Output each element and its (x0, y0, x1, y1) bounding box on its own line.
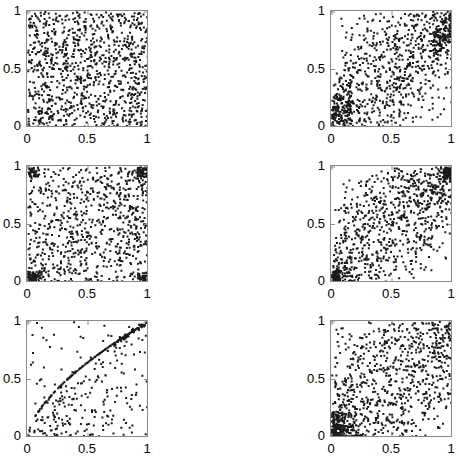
panel-top-left-xtick-2: 1 (127, 132, 167, 145)
panel-bottom-right: 00.5100.51 (330, 320, 452, 437)
panel-middle-left-xtick-1: 0.5 (67, 287, 107, 300)
panel-bottom-left-xtick-0: 0 (7, 442, 47, 455)
panel-middle-left-ytick-0: 0 (0, 274, 21, 287)
panel-top-left-xtick-1: 0.5 (67, 132, 107, 145)
panel-bottom-right-xtick-1: 0.5 (371, 442, 411, 455)
panel-bottom-left-ytick-2: 1 (0, 314, 21, 327)
panel-bottom-right-xtick-0: 0 (311, 442, 351, 455)
panel-bottom-left-ytick-0: 0 (0, 429, 21, 442)
panel-middle-right: 00.5100.51 (330, 165, 452, 282)
panel-bottom-right-points (331, 321, 452, 437)
panel-top-right-ytick-2: 1 (300, 4, 325, 17)
panel-top-right-ytick-1: 0.5 (300, 62, 325, 75)
panel-top-left-ytick-2: 1 (0, 4, 21, 17)
panel-middle-right-xtick-0: 0 (311, 287, 351, 300)
panel-bottom-left-axes (26, 320, 148, 437)
panel-top-left: 00.5100.51 (26, 10, 148, 127)
panel-middle-right-points (331, 166, 452, 282)
panel-top-right-xtick-1: 0.5 (371, 132, 411, 145)
panel-middle-right-ytick-1: 0.5 (300, 217, 325, 230)
panel-middle-left-axes (26, 165, 148, 282)
panel-top-right-xtick-2: 1 (431, 132, 459, 145)
panel-bottom-right-ytick-0: 0 (300, 429, 325, 442)
panel-bottom-left-ytick-1: 0.5 (0, 372, 21, 385)
panel-bottom-right-xtick-2: 1 (431, 442, 459, 455)
panel-top-left-axes (26, 10, 148, 127)
panel-top-right-ytick-0: 0 (300, 119, 325, 132)
panel-bottom-left-xtick-2: 1 (127, 442, 167, 455)
panel-top-right: 00.5100.51 (330, 10, 452, 127)
panel-bottom-right-ytick-2: 1 (300, 314, 325, 327)
panel-middle-right-axes (330, 165, 452, 282)
panel-middle-left-points (27, 166, 148, 282)
panel-top-left-ytick-0: 0 (0, 119, 21, 132)
panel-bottom-left: 00.5100.51 (26, 320, 148, 437)
panel-bottom-right-ytick-1: 0.5 (300, 372, 325, 385)
panel-middle-left: 00.5100.51 (26, 165, 148, 282)
panel-top-right-points (331, 11, 452, 127)
panel-middle-left-xtick-2: 1 (127, 287, 167, 300)
panel-middle-right-xtick-1: 0.5 (371, 287, 411, 300)
panel-top-left-ytick-1: 0.5 (0, 62, 21, 75)
panel-top-right-axes (330, 10, 452, 127)
panel-bottom-left-xtick-1: 0.5 (67, 442, 107, 455)
panel-middle-right-ytick-2: 1 (300, 159, 325, 172)
panel-bottom-right-axes (330, 320, 452, 437)
panel-top-left-points (27, 11, 148, 127)
panel-middle-right-xtick-2: 1 (431, 287, 459, 300)
panel-middle-left-xtick-0: 0 (7, 287, 47, 300)
panel-middle-right-ytick-0: 0 (300, 274, 325, 287)
panel-bottom-left-points (27, 321, 148, 437)
panel-middle-left-ytick-1: 0.5 (0, 217, 21, 230)
panel-top-left-xtick-0: 0 (7, 132, 47, 145)
panel-middle-left-ytick-2: 1 (0, 159, 21, 172)
panel-top-right-xtick-0: 0 (311, 132, 351, 145)
